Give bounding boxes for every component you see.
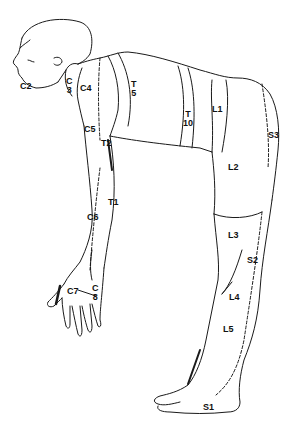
arm-outline — [47, 126, 114, 336]
label-l5: L5 — [223, 325, 234, 334]
label-c7: C7 — [67, 287, 79, 296]
label-l1: L1 — [212, 105, 223, 114]
label-c8: C 8 — [92, 284, 99, 302]
label-t10: T 10 — [183, 110, 193, 128]
label-l2: L2 — [228, 163, 239, 172]
label-s3: S3 — [268, 131, 279, 140]
label-t2: T2 — [101, 139, 112, 148]
label-s1: S1 — [203, 403, 214, 412]
label-c3: C 3 — [66, 77, 73, 95]
dermatome-figure — [0, 0, 298, 441]
label-c2: C2 — [20, 82, 32, 91]
label-c5: C5 — [84, 125, 96, 134]
head-outline — [13, 19, 92, 88]
neck-torso-outline — [65, 52, 278, 200]
label-c6: C6 — [87, 213, 99, 222]
label-l4: L4 — [229, 293, 240, 302]
label-l3: L3 — [228, 231, 239, 240]
label-c4: C4 — [80, 84, 92, 93]
label-t5: T 5 — [131, 80, 137, 98]
leg-outline — [154, 152, 272, 414]
label-t1: T1 — [108, 198, 119, 207]
label-s2: S2 — [247, 256, 258, 265]
